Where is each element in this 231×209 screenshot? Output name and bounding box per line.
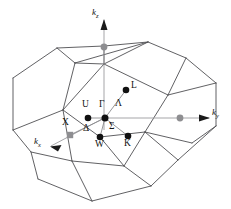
edge [38,179,92,201]
line-label-lambda: Λ [115,99,122,109]
point-label-k: K [124,139,131,149]
edge [124,166,151,186]
axis-kz [101,19,108,130]
brillouin-zone-figure: kz ky kx Γ U L W K X Λ Σ Δ [0,0,231,209]
point-x-top [101,44,108,51]
edge [148,42,186,58]
edge [57,46,104,48]
edge [13,48,57,78]
edge [192,126,216,143]
edge [57,48,75,63]
axis-label-kx: kx [34,137,41,148]
line-label-delta: Δ [83,124,89,134]
edge [75,63,104,64]
axis-label-kz: kz [92,8,99,19]
edge [151,160,178,186]
edge [178,126,216,160]
edge [31,152,38,179]
point-l [123,87,130,94]
edge [72,161,92,201]
point-gamma [102,115,109,122]
edge [13,110,63,130]
edge [100,132,145,137]
edge [72,161,124,166]
edge [92,186,151,201]
edge [186,58,216,83]
ky-arrow-head [199,115,210,122]
point-label-u: U [82,100,89,110]
point-x-front [67,132,73,138]
axis-label-ky: ky [212,108,219,119]
point-label-gamma: Γ [99,100,105,110]
edge [13,130,31,152]
edge [168,58,186,95]
line-label-sigma: Σ [109,122,115,132]
edge [145,95,168,132]
point-label-w: W [95,140,104,150]
edge [168,83,216,95]
point-label-l: L [131,81,137,91]
edge [31,152,72,161]
axis-ky [104,115,210,122]
point-x-right [177,115,184,122]
point-label-x-front: X [62,118,69,128]
point-u [85,115,92,122]
kz-arrow-head [101,19,108,30]
